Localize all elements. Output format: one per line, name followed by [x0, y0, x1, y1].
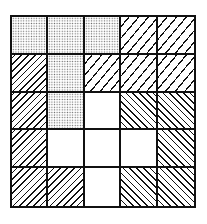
grid-cell-r5-c5-back [158, 168, 194, 206]
grid-cell-r4-c3-blank [85, 130, 121, 168]
grid-cell-r2-c2-dot [48, 55, 84, 93]
grid-cell-r2-c4-fwd-sparse [121, 55, 157, 93]
grid-cell-r4-c1-fwd-dense [12, 130, 48, 168]
grid-cell-r5-c4-back [121, 168, 157, 206]
grid-cell-r2-c5-fwd-sparse [158, 55, 194, 93]
grid-cell-r4-c5-back [158, 130, 194, 168]
grid-cell-r2-c1-fwd-dense [12, 55, 48, 93]
grid-cell-r3-c4-back [121, 93, 157, 131]
grid-cell-r2-c3-fwd-sparse [85, 55, 121, 93]
grid-cell-r3-c5-back [158, 93, 194, 131]
grid-cell-r4-c2-blank [48, 130, 84, 168]
grid-cell-r1-c5-fwd-sparse [158, 17, 194, 55]
grid-cell-r5-c2-fwd-dense [48, 168, 84, 206]
pattern-grid [10, 15, 196, 208]
grid-cell-r3-c1-fwd-dense [12, 93, 48, 131]
grid-cell-r1-c3-dot [85, 17, 121, 55]
grid-cell-r3-c2-dot [48, 93, 84, 131]
grid-cell-r4-c4-blank [121, 130, 157, 168]
grid-cell-r1-c1-dot [12, 17, 48, 55]
grid-cell-r5-c1-fwd-dense [12, 168, 48, 206]
grid-cell-r3-c3-blank [85, 93, 121, 131]
grid-cell-r1-c4-fwd-sparse [121, 17, 157, 55]
grid-cell-r1-c2-dot [48, 17, 84, 55]
grid-cell-r5-c3-blank [85, 168, 121, 206]
